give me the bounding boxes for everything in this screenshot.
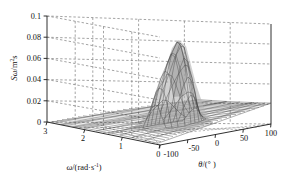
- omega-tick-label: 1: [119, 142, 123, 151]
- omega-title-open: /(rad·s: [72, 163, 94, 172]
- z-tick-label: 0: [37, 118, 41, 127]
- plot-background: [0, 0, 282, 189]
- z-tick-label: 0.08: [27, 33, 41, 42]
- z-title-tail: s: [10, 55, 19, 58]
- omega-tick-label: 3: [43, 127, 47, 136]
- theta-tick-label: -50: [189, 144, 200, 153]
- theta-tick-label: 50: [240, 134, 248, 143]
- theta-tick-label: 0: [215, 139, 219, 148]
- omega-tick-label: 2: [81, 134, 85, 143]
- z-tick-label: 0.06: [27, 54, 41, 63]
- z-tick-label: 0.02: [27, 97, 41, 106]
- theta-axis-title: θ/(° ): [198, 160, 216, 169]
- z-tick-label: 0.04: [27, 75, 41, 84]
- theta-title-unit: /(° ): [202, 160, 216, 169]
- z-axis-title: Sω/m2s: [9, 55, 19, 80]
- omega-title-close: ): [99, 163, 102, 172]
- surface-plot-canvas: 0.1 0.08 0.06 0.04 0.02 0 Sω/m2s 3 2 1 0…: [0, 0, 282, 189]
- figure-3d-surface-plot: 0.1 0.08 0.06 0.04 0.02 0 Sω/m2s 3 2 1 0…: [0, 0, 282, 189]
- z-tick-label: 0.1: [31, 12, 41, 21]
- svg-text:Sω/m2s: Sω/m2s: [9, 55, 19, 80]
- omega-tick-label: 0: [156, 150, 160, 159]
- theta-tick-label: -100: [163, 150, 178, 159]
- theta-tick-label: 100: [265, 129, 277, 138]
